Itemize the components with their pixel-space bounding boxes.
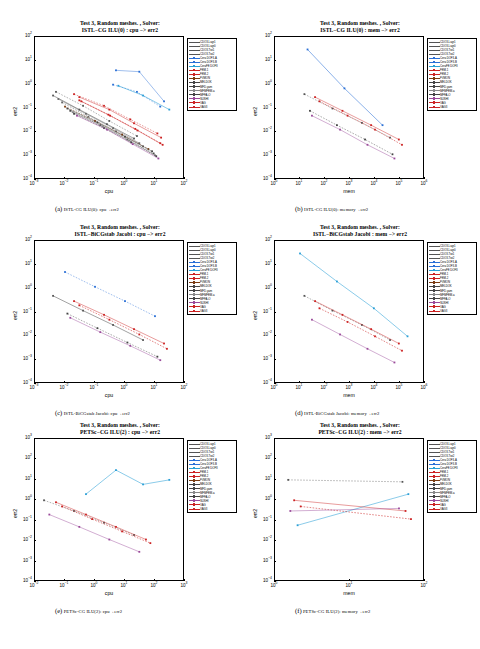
y-axis-label-c: err2 xyxy=(12,310,18,319)
data-point xyxy=(129,118,131,120)
y-tick-label: 103 xyxy=(258,435,272,440)
x-tick-label: 102 xyxy=(177,181,191,186)
legend-marker-icon xyxy=(429,507,440,511)
data-point xyxy=(52,295,54,297)
data-point xyxy=(314,96,316,98)
data-point xyxy=(126,342,128,344)
legend-label: VAG3 xyxy=(440,507,447,511)
y-tick-mark xyxy=(34,131,36,132)
legend-a: CDO3-Lagr1CDO3-Lagr0CDO3-Twi1CDO3-Twi2Ce… xyxy=(187,38,237,111)
x-tick-label: 102 xyxy=(317,385,331,390)
data-point xyxy=(407,335,409,337)
y-tick-mark xyxy=(34,36,36,37)
data-point xyxy=(319,100,321,102)
subplot-caption-c: (c) ISTL-BiCGstab Jacobi: cpu→err2 xyxy=(55,409,130,416)
data-point xyxy=(166,348,168,350)
y-tick-label: 100 xyxy=(258,81,272,86)
data-point xyxy=(347,321,349,323)
data-point xyxy=(108,319,110,321)
series-line xyxy=(118,86,169,110)
legend-f: CDO3-Lagr1CDO3-Lagr0CDO3-Twi1CDO3-Twi2Ce… xyxy=(427,440,477,513)
series-line xyxy=(86,470,169,494)
x-tick-label: 10−1 xyxy=(87,181,101,186)
figure-root: Test 3, Random meshes. , Solver:ISTL−CG … xyxy=(0,0,480,649)
data-point xyxy=(76,115,78,117)
data-point xyxy=(289,510,291,512)
data-point xyxy=(133,328,135,330)
data-point xyxy=(314,300,316,302)
subplot-title-f: Test 3, Random meshes. , Solver:PETSc−CG… xyxy=(240,422,480,436)
data-point xyxy=(96,327,98,329)
data-point xyxy=(367,348,369,350)
y-tick-mark xyxy=(34,155,36,156)
data-point xyxy=(304,295,306,297)
x-tick-label: 101 xyxy=(147,385,161,390)
y-tick-mark xyxy=(274,36,276,37)
x-tick-mark xyxy=(64,177,65,179)
data-point xyxy=(73,93,75,95)
subplot-title-line1-e: Test 3, Random meshes. , Solver: xyxy=(0,422,240,429)
series-layer-e xyxy=(35,439,185,582)
x-tick-label: 101 xyxy=(147,181,161,186)
data-point xyxy=(347,115,349,117)
data-point xyxy=(85,493,87,495)
y-tick-mark xyxy=(274,131,276,132)
data-point xyxy=(80,100,82,102)
x-tick-mark xyxy=(154,579,155,581)
y-tick-label: 10−2 xyxy=(258,128,272,133)
caption-text-f: PETSc-CG ILU(2): memory→err2 xyxy=(303,609,370,614)
y-tick-label: 100 xyxy=(258,496,272,501)
x-tick-mark xyxy=(274,579,275,581)
legend-item[interactable]: VAG3 xyxy=(189,105,235,109)
legend-item[interactable]: VAG3 xyxy=(429,105,475,109)
data-point xyxy=(142,95,144,97)
plot-area-e xyxy=(34,438,184,581)
data-point xyxy=(392,153,394,155)
y-tick-mark xyxy=(34,264,36,265)
y-tick-mark xyxy=(274,438,276,439)
x-axis-label-a: cpu xyxy=(34,188,184,194)
y-tick-label: 101 xyxy=(258,261,272,266)
legend-e: CDO3-Lagr1CDO3-Lagr0CDO3-Twi1CDO3-Twi2Ce… xyxy=(187,440,237,513)
data-point xyxy=(117,85,119,87)
subplot-title-line2-a: ISTL−CG ILU(0) : cpu −> err2 xyxy=(0,27,240,34)
y-tick-label: 101 xyxy=(258,476,272,481)
subplot-title-line2-b: ISTL−CG ILU(0) : mem −> err2 xyxy=(240,27,480,34)
y-tick-mark xyxy=(34,240,36,241)
subplot-title-line1-d: Test 3, Random meshes. , Solver: xyxy=(240,224,480,231)
data-point xyxy=(69,110,71,112)
series-line xyxy=(44,500,134,535)
data-point xyxy=(138,551,140,553)
y-tick-mark xyxy=(274,561,276,562)
data-point xyxy=(311,319,313,321)
data-point xyxy=(66,108,68,110)
series-line xyxy=(290,508,399,511)
x-tick-label: 101 xyxy=(292,385,306,390)
x-tick-mark xyxy=(154,177,155,179)
caption-letter-c: (c) xyxy=(55,409,62,416)
data-point xyxy=(293,499,295,501)
legend-item[interactable]: VAG3 xyxy=(429,309,475,313)
x-tick-label: 106 xyxy=(417,385,431,390)
series-line xyxy=(79,97,161,137)
data-point xyxy=(401,144,403,146)
data-point xyxy=(133,122,135,124)
subplot-title-line1-f: Test 3, Random meshes. , Solver: xyxy=(240,422,480,429)
legend-item[interactable]: VAG3 xyxy=(189,507,235,511)
series-layer-c xyxy=(35,241,185,384)
x-tick-mark xyxy=(124,177,125,179)
y-tick-mark xyxy=(274,499,276,500)
y-tick-label: 100 xyxy=(18,285,32,290)
y-axis-label-f: err2 xyxy=(252,508,258,517)
data-point xyxy=(344,87,346,89)
data-point xyxy=(311,115,313,117)
data-point xyxy=(410,518,412,520)
data-point xyxy=(159,106,161,108)
y-tick-label: 100 xyxy=(18,81,32,86)
data-point xyxy=(138,334,140,336)
legend-item[interactable]: VAG3 xyxy=(429,507,475,511)
y-tick-label: 10−3 xyxy=(258,152,272,157)
legend-item[interactable]: VAG3 xyxy=(189,309,235,313)
data-point xyxy=(66,313,68,315)
y-tick-mark xyxy=(34,540,36,541)
